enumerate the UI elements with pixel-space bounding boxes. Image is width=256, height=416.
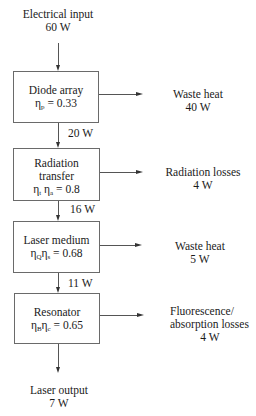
arrow-head-right-icon: [135, 243, 142, 247]
flow-arrow-line-2: [58, 200, 59, 216]
arrow-head-right-icon: [136, 92, 143, 96]
stage-title: Laser medium: [14, 234, 99, 247]
flow-arrow-line-3: [58, 272, 59, 288]
flow-arrow-line-1: [58, 122, 59, 143]
loss-label-1: Waste heat: [160, 88, 236, 101]
stage-box-resonator: Resonator ηBηc = 0.65: [14, 293, 100, 344]
input-label: Electrical input: [0, 8, 116, 21]
loss-label-3: Waste heat: [162, 240, 238, 253]
arrow-head-right-icon: [136, 170, 143, 174]
flow-label-1: 20 W: [68, 127, 93, 140]
input-arrow-line: [58, 43, 59, 66]
stage-title: Radiation: [14, 157, 99, 170]
stage-box-laser-medium: Laser medium ηQηs = 0.68: [13, 221, 100, 273]
loss-value-2: 4 W: [160, 179, 246, 192]
output-arrow-line: [58, 343, 59, 367]
stage-title-line2: transfer: [14, 170, 99, 183]
stage-box-diode-array: Diode array ηp = 0.33: [13, 71, 99, 123]
flow-label-3: 11 W: [68, 277, 93, 290]
stage-efficiency: ηt ηa = 0.8: [14, 183, 99, 200]
output-label: Laser output: [0, 384, 118, 397]
loss-label-4-line2: absorption losses: [170, 318, 249, 331]
stage-efficiency: ηBηc = 0.65: [15, 319, 99, 336]
stage-efficiency: ηp = 0.33: [14, 97, 98, 114]
stage-title: Diode array: [14, 84, 98, 97]
flow-label-2: 16 W: [70, 203, 95, 216]
stage-box-radiation-transfer: Radiation transfer ηt ηa = 0.8: [13, 148, 100, 201]
output-value: 7 W: [0, 397, 118, 410]
loss-arrow-line-1: [99, 94, 137, 95]
loss-value-3: 5 W: [162, 253, 238, 266]
loss-value-1: 40 W: [160, 101, 236, 114]
input-value: 60 W: [0, 21, 116, 34]
loss-arrow-line-3: [100, 245, 136, 246]
loss-value-4: 4 W: [170, 331, 250, 344]
arrow-head-right-icon: [137, 313, 144, 317]
stage-title: Resonator: [15, 306, 99, 319]
loss-label-2: Radiation losses: [160, 166, 246, 179]
arrow-head-down-icon: [56, 367, 60, 373]
loss-arrow-line-4: [100, 315, 138, 316]
stage-efficiency: ηQηs = 0.68: [14, 247, 99, 264]
loss-arrow-line-2: [100, 172, 137, 173]
loss-label-4: Fluorescence/: [170, 305, 234, 318]
